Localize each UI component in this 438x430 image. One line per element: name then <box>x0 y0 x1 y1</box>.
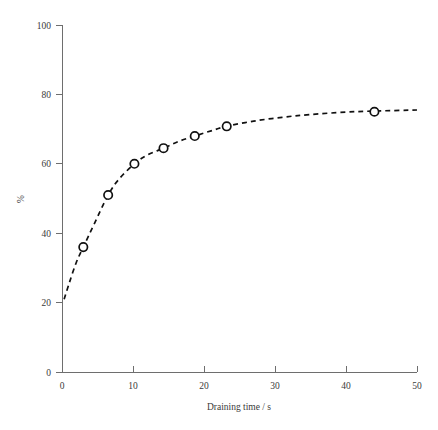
data-point-marker <box>191 132 199 140</box>
axis-lines <box>62 25 417 372</box>
data-point-marker <box>159 144 167 152</box>
data-point-marker <box>104 191 112 199</box>
x-axis-ticks <box>62 366 417 372</box>
y-tick-label: 0 <box>46 368 51 378</box>
x-tick-label: 10 <box>128 381 138 391</box>
y-tick-label: 80 <box>42 90 52 100</box>
series-line <box>64 110 417 299</box>
y-tick-label: 100 <box>37 21 52 31</box>
x-tick-label: 20 <box>199 381 209 391</box>
y-axis-title: % <box>16 195 26 203</box>
x-tick-label: 0 <box>60 381 65 391</box>
x-axis-title: Draining time / s <box>207 402 271 412</box>
y-axis-ticks <box>56 25 62 372</box>
y-tick-label: 60 <box>42 159 52 169</box>
series-markers <box>79 108 378 252</box>
chart-figure: 0 20 40 60 80 100 0 10 20 30 40 50 Drain… <box>0 0 438 430</box>
data-series <box>64 108 417 300</box>
line-chart: 0 20 40 60 80 100 0 10 20 30 40 50 Drain… <box>0 0 438 430</box>
x-axis-tick-labels: 0 10 20 30 40 50 <box>60 381 422 391</box>
data-point-marker <box>79 243 87 251</box>
data-point-marker <box>130 160 138 168</box>
data-point-marker <box>223 122 231 130</box>
x-tick-label: 50 <box>412 381 422 391</box>
data-point-marker <box>370 108 378 116</box>
y-tick-label: 20 <box>42 298 52 308</box>
x-tick-label: 40 <box>341 381 351 391</box>
x-tick-label: 30 <box>270 381 280 391</box>
y-tick-label: 40 <box>42 229 52 239</box>
y-axis-tick-labels: 0 20 40 60 80 100 <box>37 21 52 378</box>
